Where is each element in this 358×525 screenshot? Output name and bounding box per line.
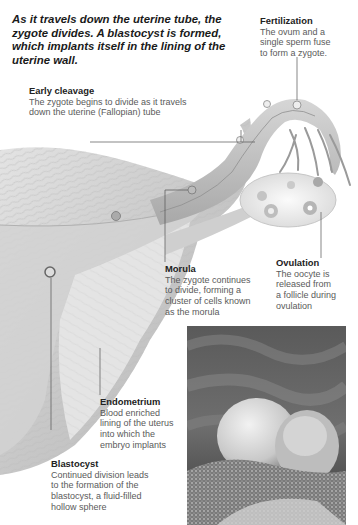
label-title: Morula (165, 263, 275, 275)
label-title: Early cleavage (29, 85, 229, 97)
label-morula: Morula The zygote continues to divide, f… (165, 263, 275, 318)
label-early-cleavage: Early cleavage The zygote begins to divi… (29, 85, 229, 118)
label-title: Fertilization (260, 15, 355, 27)
blastocyst-micrograph (187, 326, 346, 525)
blastocyst-dot (45, 267, 55, 277)
label-endometrium: Endometrium Blood enriched lining of the… (100, 396, 190, 451)
label-title: Blastocyst (51, 458, 181, 470)
label-fertilization: Fertilization The ovum and a single sper… (260, 15, 355, 59)
label-title: Ovulation (276, 257, 356, 269)
intro-caption: As it travels down the uterine tube, the… (12, 13, 247, 67)
zygote-dot (293, 101, 301, 109)
morula-dot (188, 186, 196, 194)
label-title: Endometrium (100, 396, 190, 408)
early-cleavage-dot (264, 101, 271, 108)
label-ovulation: Ovulation The oocyte is released from a … (276, 257, 356, 312)
label-blastocyst: Blastocyst Continued division leads to t… (51, 458, 181, 513)
ovary (240, 173, 336, 227)
